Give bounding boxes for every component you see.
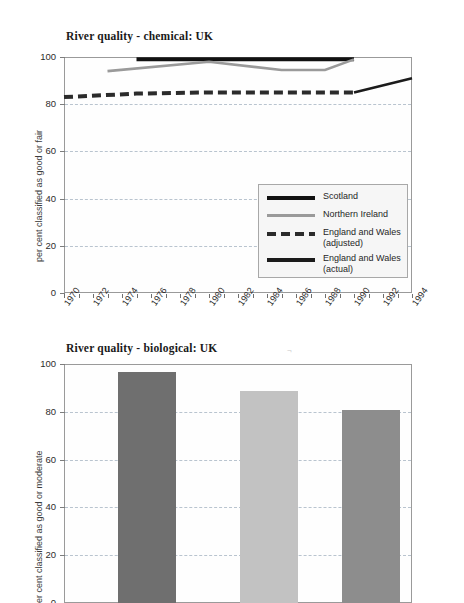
y-tick-label-biological: 100 bbox=[30, 358, 56, 369]
legend-label-england-wales-adjusted: England and Wales (adjusted) bbox=[315, 227, 401, 249]
y-axis-label-biological: per cent classified as good or moderate bbox=[34, 450, 44, 603]
legend-label-northern-ireland: Northern Ireland bbox=[315, 209, 388, 220]
x-tick-label-chemical: 1994 bbox=[410, 286, 430, 308]
figure-river-quality-biological: River quality - biological: UK ¬ per cen… bbox=[0, 320, 464, 603]
bar bbox=[118, 372, 176, 603]
chart-title-biological: River quality - biological: UK bbox=[66, 342, 217, 354]
y-tick-label-biological: 80 bbox=[30, 406, 56, 417]
legend-swatch-england-wales-adjusted bbox=[267, 232, 315, 236]
y-tick-label-chemical: 40 bbox=[30, 193, 56, 204]
y-tick-label-biological: 0 bbox=[30, 597, 56, 603]
bar bbox=[240, 391, 298, 603]
y-tick-label-biological: 20 bbox=[30, 549, 56, 560]
legend-item-scotland[interactable]: Scotland bbox=[259, 191, 409, 202]
y-tick-label-chemical: 0 bbox=[30, 287, 56, 298]
y-tick-label-biological: 60 bbox=[30, 454, 56, 465]
legend-swatch-scotland bbox=[267, 196, 315, 200]
page-root: River quality - chemical: UK per cent cl… bbox=[0, 0, 464, 603]
legend-swatch-northern-ireland bbox=[267, 214, 315, 217]
bar bbox=[342, 410, 400, 603]
legend-item-england-wales-adjusted[interactable]: England and Wales (adjusted) bbox=[259, 227, 409, 249]
y-tick-label-biological: 40 bbox=[30, 501, 56, 512]
series-line bbox=[354, 78, 412, 92]
legend-item-northern-ireland[interactable]: Northern Ireland bbox=[259, 209, 409, 220]
chart-title-chemical: River quality - chemical: UK bbox=[66, 30, 213, 42]
legend-swatch-england-wales-actual bbox=[267, 258, 315, 262]
y-tick-label-chemical: 80 bbox=[30, 98, 56, 109]
series-line bbox=[64, 92, 354, 97]
y-tick-label-chemical: 100 bbox=[30, 51, 56, 62]
y-tick-label-chemical: 20 bbox=[30, 240, 56, 251]
bar-layer-biological bbox=[65, 365, 411, 603]
figure-river-quality-chemical: River quality - chemical: UK per cent cl… bbox=[0, 0, 464, 330]
legend-label-scotland: Scotland bbox=[315, 191, 358, 202]
y-tick-label-chemical: 60 bbox=[30, 145, 56, 156]
stray-mark-icon: ¬ bbox=[287, 346, 292, 355]
chart-legend[interactable]: Scotland Northern Ireland England and Wa… bbox=[258, 184, 408, 278]
legend-item-england-wales-actual[interactable]: England and Wales (actual) bbox=[259, 253, 409, 275]
legend-label-england-wales-actual: England and Wales (actual) bbox=[315, 253, 401, 275]
